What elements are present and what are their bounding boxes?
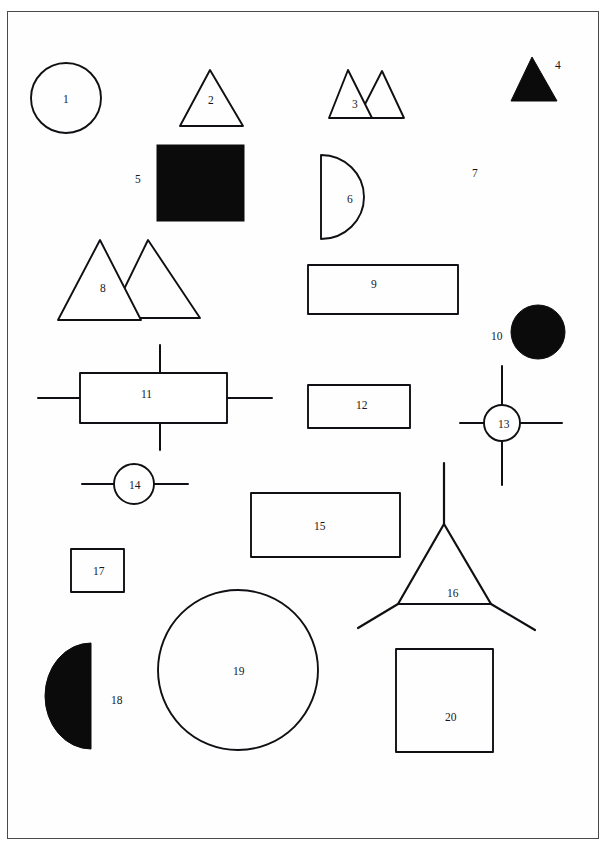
shape-label-6: 6 [347,194,353,206]
triangle-outline [398,524,491,604]
triangle-outline-front [329,70,372,118]
shape-label-14: 14 [129,480,141,492]
shape-11 [38,345,272,450]
shape-label-18: 18 [111,695,123,707]
square-filled [157,145,244,221]
shape-label-2: 2 [208,95,214,107]
shape-label-3: 3 [352,99,358,111]
square-outline [396,649,493,752]
figure-page: 1234567891011121314151617181920 [0,0,606,844]
circle-filled [511,305,565,359]
shape-label-4: 4 [555,60,561,72]
shape-8 [58,240,200,320]
shape-label-10: 10 [491,331,503,343]
rectangle-outline [308,265,458,314]
shape-6 [321,155,364,239]
shape-9 [308,265,458,314]
shape-label-11: 11 [141,389,152,401]
shape-label-19: 19 [233,666,245,678]
shape-13 [460,366,562,485]
shape-5 [157,145,244,221]
shape-20 [396,649,493,752]
shape-label-12: 12 [356,400,368,412]
shape-label-15: 15 [314,521,326,533]
shape-label-5: 5 [135,174,141,186]
shape-label-13: 13 [498,419,510,431]
half-disc-outline [321,155,364,239]
shape-label-20: 20 [445,712,457,724]
shape-label-7: 7 [472,168,478,180]
shapes-canvas [0,0,606,844]
triangle-filled [511,57,557,101]
shape-label-16: 16 [447,588,459,600]
leg-line-right [491,604,535,630]
shape-4 [511,57,557,101]
shape-label-9: 9 [371,279,377,291]
leg-line-left [358,604,398,628]
rectangle-outline [80,373,227,423]
half-disc-filled [45,643,91,749]
shape-label-1: 1 [63,94,69,106]
shape-label-17: 17 [93,566,105,578]
shape-10 [511,305,565,359]
shape-3 [329,70,404,118]
shape-16 [358,463,535,630]
shape-label-8: 8 [100,283,106,295]
shape-18 [45,643,91,749]
